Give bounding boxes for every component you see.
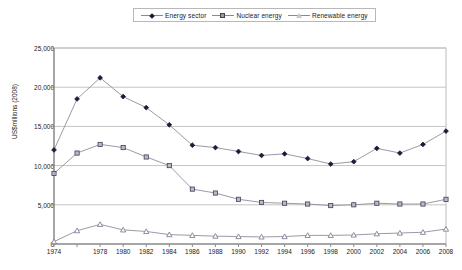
data-point-square — [282, 201, 286, 205]
data-point-square — [259, 200, 263, 204]
data-point-square — [52, 171, 56, 175]
data-point-square — [167, 164, 171, 168]
plot-area — [0, 0, 462, 270]
data-point-square — [398, 202, 402, 206]
data-point-square — [375, 201, 379, 205]
data-point-square — [352, 203, 356, 207]
data-point-square — [121, 145, 125, 149]
data-point-square — [329, 203, 333, 207]
data-point-square — [444, 197, 448, 201]
data-point-square — [421, 202, 425, 206]
data-point-square — [144, 155, 148, 159]
data-point-square — [236, 197, 240, 201]
chart-container: Energy sector Nuclear energy Renewable e… — [0, 0, 462, 270]
data-point-square — [98, 142, 102, 146]
data-point-square — [306, 202, 310, 206]
data-point-square — [190, 187, 194, 191]
data-point-square — [213, 191, 217, 195]
data-point-square — [75, 151, 79, 155]
